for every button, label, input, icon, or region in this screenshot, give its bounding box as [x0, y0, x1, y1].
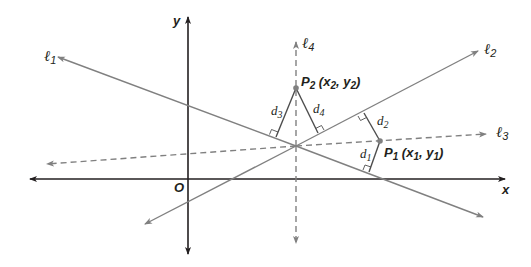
label-p2: P2 (x2, y2) [301, 74, 360, 91]
label-d1: d1 [360, 146, 372, 163]
point-p1 [377, 138, 383, 144]
y-axis-label: y [172, 13, 181, 28]
label-p1: P1 (x1, y1) [384, 145, 443, 162]
label-d2: d2 [377, 113, 389, 130]
label-l4: ℓ4 [302, 35, 314, 53]
label-d3: d3 [271, 103, 283, 120]
point-p2 [293, 85, 299, 91]
x-axis-label: x [501, 182, 510, 197]
diagram-canvas: y x O ℓ1 ℓ2 ℓ3 ℓ4 P2 (x2, y2) P1 (x1, y1… [0, 0, 531, 267]
coordinate-diagram: y x O ℓ1 ℓ2 ℓ3 ℓ4 P2 (x2, y2) P1 (x1, y1… [0, 0, 531, 267]
label-l1: ℓ1 [44, 48, 56, 66]
label-l2: ℓ2 [484, 41, 496, 59]
origin-label: O [174, 180, 184, 195]
label-d4: d4 [313, 101, 325, 118]
label-l3: ℓ3 [496, 124, 509, 142]
